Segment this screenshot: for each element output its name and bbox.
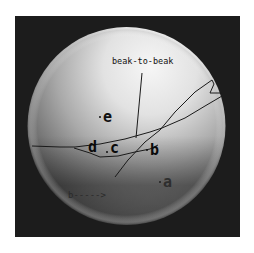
point-b-label: b bbox=[150, 141, 159, 159]
point-e-label: e bbox=[103, 108, 112, 126]
point-d-label: d bbox=[88, 138, 97, 156]
point-c-marker bbox=[106, 151, 108, 153]
point-c-label: c bbox=[110, 139, 119, 157]
point-a-marker bbox=[159, 181, 161, 183]
sphere-figure: beak-to-beak e d c b a b-----> bbox=[0, 0, 254, 253]
sphere-svg: beak-to-beak e d c b a b-----> bbox=[0, 0, 254, 253]
point-a-label: a bbox=[163, 173, 172, 191]
bottom-faint-label: b-----> bbox=[68, 190, 107, 200]
beak-to-beak-label: beak-to-beak bbox=[112, 56, 173, 66]
point-e-marker bbox=[99, 116, 101, 118]
point-b-marker bbox=[146, 149, 148, 151]
